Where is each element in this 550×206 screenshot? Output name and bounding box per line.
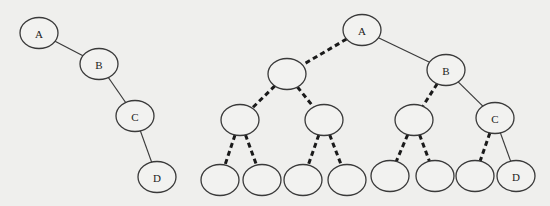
- node-label: A: [358, 25, 366, 37]
- dashed-edge-R_2a-R_3b: [245, 135, 256, 165]
- tree-diagram-canvas: ABCDABCD: [0, 0, 550, 206]
- tree-node-empty: [456, 161, 494, 192]
- node-ellipse: [395, 105, 433, 136]
- node-label: C: [491, 113, 498, 125]
- tree-node-empty: [284, 165, 322, 196]
- node-ellipse: [221, 105, 259, 136]
- tree-node-empty: [305, 105, 343, 136]
- node-label: B: [95, 59, 102, 71]
- node-label: D: [512, 171, 520, 183]
- solid-edge-R_A-R_B: [378, 38, 429, 62]
- binary-tree-diagram: ABCDABCD: [0, 0, 550, 206]
- node-ellipse: [243, 165, 281, 196]
- node-ellipse: [305, 105, 343, 136]
- tree-node-b: B: [427, 55, 465, 86]
- tree-node-empty: [395, 105, 433, 136]
- tree-node-c: C: [476, 103, 514, 134]
- tree-node-a: A: [20, 18, 58, 49]
- solid-edge-L_A-L_B: [55, 41, 83, 55]
- dashed-edge-R_2c-R_3f: [420, 135, 430, 161]
- dashed-edge-R_B-R_2c: [423, 84, 437, 107]
- dashed-edge-R_A-R_1L: [302, 39, 346, 65]
- solid-edge-L_C-L_D: [140, 131, 151, 162]
- node-ellipse: [201, 165, 239, 196]
- node-label: A: [35, 28, 43, 40]
- dashed-edge-R_1L-R_2b: [297, 87, 313, 107]
- tree-node-empty: [328, 165, 366, 196]
- dashed-edge-R_1L-R_2a: [252, 86, 275, 108]
- solid-edge-R_C-R_D: [500, 133, 510, 161]
- node-ellipse: [456, 161, 494, 192]
- dashed-edge-R_C-R_3g: [480, 133, 490, 161]
- tree-node-empty: [243, 165, 281, 196]
- nodes-layer: ABCDABCD: [20, 15, 535, 196]
- tree-node-empty: [371, 161, 409, 192]
- tree-node-d: D: [497, 161, 535, 192]
- dashed-edge-R_2b-R_3c: [308, 135, 319, 165]
- tree-node-empty: [201, 165, 239, 196]
- tree-node-a: A: [343, 15, 381, 46]
- dashed-edge-R_2c-R_3e: [396, 135, 407, 162]
- tree-node-empty: [268, 59, 306, 90]
- tree-node-b: B: [80, 49, 118, 80]
- node-ellipse: [416, 161, 454, 192]
- node-label: C: [131, 111, 138, 123]
- tree-node-empty: [221, 105, 259, 136]
- node-label: D: [153, 172, 161, 184]
- solid-edge-R_B-R_C: [458, 82, 483, 106]
- node-label: B: [442, 65, 449, 77]
- node-ellipse: [371, 161, 409, 192]
- tree-node-empty: [416, 161, 454, 192]
- dashed-edge-R_2a-R_3a: [225, 135, 235, 165]
- node-ellipse: [268, 59, 306, 90]
- dashed-edge-R_2b-R_3d: [330, 135, 342, 165]
- node-ellipse: [284, 165, 322, 196]
- tree-node-d: D: [138, 162, 176, 193]
- solid-edge-L_B-L_C: [108, 77, 125, 102]
- tree-node-c: C: [116, 101, 154, 132]
- node-ellipse: [328, 165, 366, 196]
